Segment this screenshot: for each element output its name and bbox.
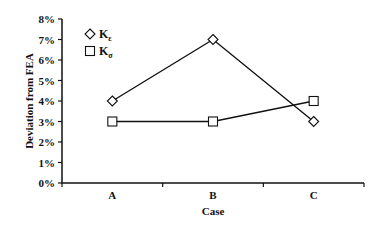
legend: KεKσ <box>85 27 113 60</box>
x-tick-label: A <box>108 189 116 201</box>
line-chart: 0%1%2%3%4%5%6%7%8% ABC KεKσ Deviation fr… <box>0 0 383 232</box>
y-tick-label: 3% <box>39 116 56 128</box>
series-square <box>108 97 318 127</box>
series-diamond <box>107 35 318 127</box>
y-tick-label: 1% <box>39 157 56 169</box>
series-layer <box>107 35 318 127</box>
square-marker <box>108 117 117 126</box>
legend-label: Kε <box>99 27 112 43</box>
x-axis-title: Case <box>202 205 225 217</box>
y-tick-label: 4% <box>39 95 56 107</box>
x-axis: ABC <box>62 183 364 201</box>
y-tick-label: 2% <box>39 136 56 148</box>
diamond-marker <box>85 29 95 39</box>
y-tick-label: 7% <box>39 34 56 46</box>
square-marker <box>309 97 318 106</box>
y-tick-label: 0% <box>39 177 56 189</box>
series-line <box>112 40 313 122</box>
x-tick-label: B <box>209 189 217 201</box>
y-tick-label: 5% <box>39 75 56 87</box>
y-tick-label: 6% <box>39 54 56 66</box>
diamond-marker <box>107 96 117 106</box>
square-marker <box>86 47 95 56</box>
y-axis: 0%1%2%3%4%5%6%7%8% <box>39 13 63 189</box>
x-tick-label: C <box>310 189 318 201</box>
y-tick-label: 8% <box>39 13 56 25</box>
square-marker <box>209 117 218 126</box>
legend-label: Kσ <box>99 44 113 60</box>
y-axis-title: Deviation from FEA <box>23 53 35 149</box>
